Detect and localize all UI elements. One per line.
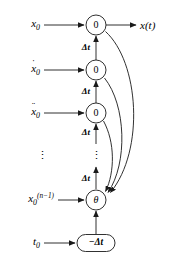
input-label-xdot0: ̇x0 — [31, 63, 40, 76]
node-label-0-c: 0 — [94, 108, 99, 118]
feedback-path-node-0-c — [104, 121, 113, 192]
node-label-minus-delta-t: −Δt — [89, 238, 103, 248]
input-label-xddot0: ̈x0 — [31, 106, 40, 119]
chain-ellipsis: ⋮ — [91, 150, 102, 161]
edge-label-delta-t-4: Δt — [82, 174, 90, 183]
node-label-0-b: 0 — [94, 65, 99, 75]
edge-label-delta-t-3: Δt — [82, 128, 90, 137]
edge-label-delta-t-2: Δt — [82, 87, 90, 96]
node-label-theta: θ — [94, 195, 99, 205]
diagram-canvas: x0 ̇x0 ̈x0 x0(n−1) t0 ⋮ ⋮ Δt Δt Δt Δt 0 … — [0, 0, 171, 263]
feedback-path-node-0-b — [105, 78, 122, 193]
output-label-x-of-t: x(t) — [140, 20, 155, 31]
node-label-0-a: 0 — [94, 20, 99, 30]
input-ellipsis: ⋮ — [37, 150, 48, 161]
edge-label-delta-t-1: Δt — [82, 43, 90, 52]
input-label-t0: t0 — [33, 236, 40, 249]
input-label-x0: x0 — [31, 18, 40, 31]
input-label-xn1-0: x0(n−1) — [28, 193, 54, 206]
